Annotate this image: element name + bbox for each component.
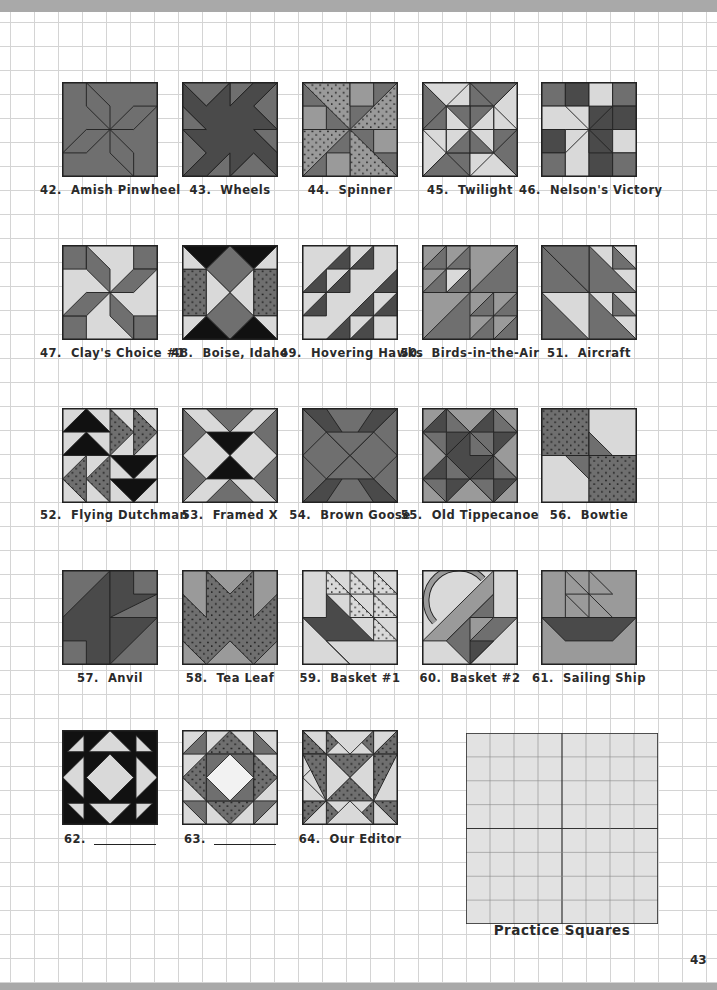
quilt-block-spinner — [302, 82, 398, 177]
block-label: 52. Flying Dutchman — [40, 508, 180, 522]
quilt-block-illustration — [422, 82, 518, 177]
quilt-block-illustration — [182, 570, 278, 665]
block-number: 55. — [401, 508, 423, 522]
block-label: 58. Tea Leaf — [160, 671, 300, 685]
quilt-patch — [326, 153, 350, 176]
block-label: 47. Clay's Choice #1 — [40, 346, 180, 360]
block-number: 63. — [184, 832, 206, 846]
block-number: 62. — [64, 832, 86, 846]
block-name: Twilight — [458, 183, 513, 197]
quilt-block-brown-goose — [302, 408, 398, 503]
block-number: 54. — [289, 508, 311, 522]
block-label: 46. Nelson's Victory — [519, 183, 659, 197]
block-label: 42. Amish Pinwheel — [40, 183, 180, 197]
block-number: 51. — [547, 346, 569, 360]
block-label: 49. Hovering Hawks — [280, 346, 420, 360]
quilt-block-twilight — [422, 82, 518, 177]
quilt-block-block-63 — [182, 730, 278, 825]
block-number: 53. — [182, 508, 204, 522]
quilt-patch — [63, 246, 87, 269]
name-blank-line[interactable] — [214, 844, 276, 845]
name-blank-line[interactable] — [94, 844, 156, 845]
quilt-patch — [494, 571, 518, 618]
block-name: Tea Leaf — [217, 671, 275, 685]
quilt-patch — [134, 246, 158, 269]
block-number: 42. — [40, 183, 62, 197]
quilt-patch — [613, 153, 637, 176]
quilt-block-illustration — [62, 730, 158, 825]
block-number: 50. — [401, 346, 423, 360]
quilt-block-clays-choice — [62, 245, 158, 340]
quilt-block-illustration — [62, 570, 158, 665]
block-name: Basket #2 — [450, 671, 520, 685]
quilt-block-aircraft — [541, 245, 637, 340]
block-label: 57. Anvil — [40, 671, 180, 685]
quilt-block-bowtie — [541, 408, 637, 503]
quilt-patch — [350, 83, 374, 106]
block-name: Nelson's Victory — [550, 183, 663, 197]
block-name: Bowtie — [581, 508, 629, 522]
block-name: Wheels — [220, 183, 270, 197]
block-label: 59. Basket #1 — [280, 671, 420, 685]
block-label: 63. — [160, 832, 300, 846]
quilt-block-illustration — [302, 408, 398, 503]
block-label: 62. — [40, 832, 180, 846]
quilt-block-illustration — [541, 408, 637, 503]
block-label: 51. Aircraft — [519, 346, 659, 360]
quilt-block-old-tippecanoe — [422, 408, 518, 503]
quilt-block-sailing-ship — [541, 570, 637, 665]
block-label: 56. Bowtie — [519, 508, 659, 522]
block-number: 44. — [308, 183, 330, 197]
quilt-block-flying-dutchman — [62, 408, 158, 503]
quilt-block-illustration — [541, 82, 637, 177]
practice-squares-grid[interactable] — [466, 733, 658, 924]
block-number: 49. — [280, 346, 302, 360]
block-number: 46. — [519, 183, 541, 197]
block-number: 47. — [40, 346, 62, 360]
quilt-patch — [254, 269, 278, 316]
top-band — [0, 0, 717, 12]
block-label: 44. Spinner — [280, 183, 420, 197]
block-name: Spinner — [339, 183, 393, 197]
block-name: Brown Goose — [320, 508, 411, 522]
block-number: 52. — [40, 508, 62, 522]
quilt-block-basket-2 — [422, 570, 518, 665]
quilt-block-illustration — [182, 82, 278, 177]
quilt-block-hovering-hawks — [302, 245, 398, 340]
quilt-block-block-62 — [62, 730, 158, 825]
quilt-patch — [542, 83, 566, 106]
block-label: 64. Our Editor — [280, 832, 420, 846]
quilt-block-tea-leaf — [182, 570, 278, 665]
block-label: 48. Boise, Idaho — [160, 346, 300, 360]
block-number: 48. — [172, 346, 194, 360]
quilt-block-illustration — [422, 245, 518, 340]
block-label: 54. Brown Goose — [280, 508, 420, 522]
quilt-patch — [303, 106, 327, 129]
block-number: 43. — [189, 183, 211, 197]
quilt-block-illustration — [62, 408, 158, 503]
practice-squares-label: Practice Squares — [466, 922, 658, 938]
quilt-block-illustration — [182, 245, 278, 340]
page-number: 43 — [690, 953, 707, 967]
quilt-block-wheels — [182, 82, 278, 177]
bottom-band — [0, 983, 717, 990]
block-name: Anvil — [108, 671, 143, 685]
block-number: 60. — [419, 671, 441, 685]
quilt-patch — [374, 130, 398, 153]
quilt-block-illustration — [302, 730, 398, 825]
block-label: 53. Framed X — [160, 508, 300, 522]
block-number: 61. — [532, 671, 554, 685]
quilt-block-our-editor — [302, 730, 398, 825]
quilt-block-illustration — [422, 570, 518, 665]
quilt-patch — [134, 316, 158, 339]
block-name: Framed X — [213, 508, 278, 522]
quilt-block-framed-x — [182, 408, 278, 503]
block-number: 59. — [299, 671, 321, 685]
quilt-block-amish-pinwheel — [62, 82, 158, 177]
quilt-patch — [183, 83, 278, 177]
quilt-patch — [542, 153, 566, 176]
quilt-block-nelsons-victory — [541, 82, 637, 177]
quilt-block-illustration — [62, 245, 158, 340]
quilt-block-illustration — [541, 570, 637, 665]
quilt-block-illustration — [302, 82, 398, 177]
